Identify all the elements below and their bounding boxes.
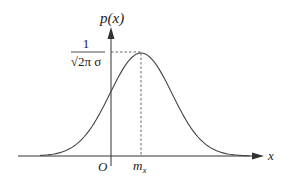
y-axis-label: p(x) [99,10,124,27]
peak-value-denominator: √2π σ [71,54,101,69]
gaussian-diagram: p(x) x O mx 1 √2π σ [0,0,291,180]
mean-label-subscript: x [141,165,146,175]
mean-label-main: m [133,158,142,173]
x-axis-arrow-icon [252,153,264,160]
peak-value-numerator: 1 [83,36,90,51]
y-axis-arrow-icon [108,27,115,39]
mean-label: mx [133,158,146,175]
origin-label: O [98,159,108,174]
x-axis-label: x [267,148,274,163]
